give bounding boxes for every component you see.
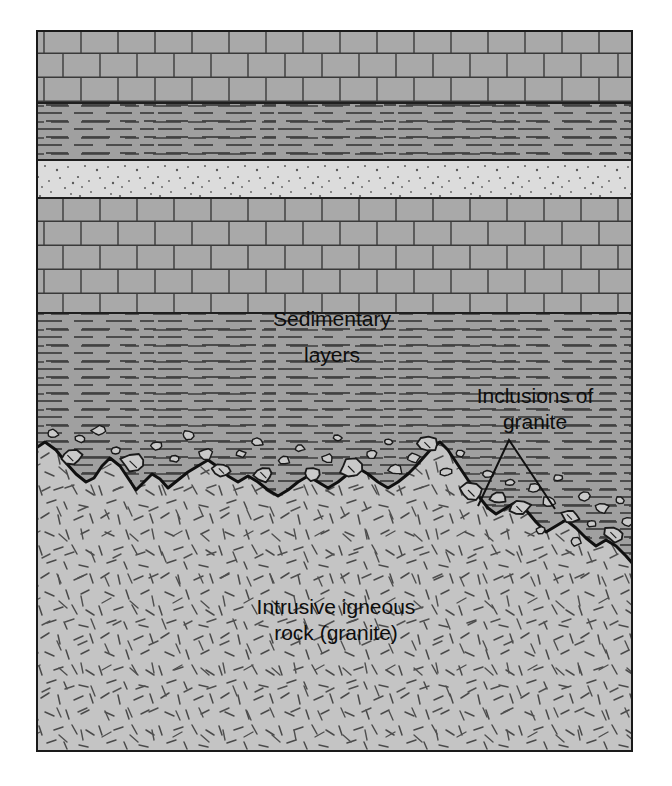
label-sedimentary-line1: Sedimentary (273, 307, 391, 330)
label-igneous-line1: Intrusive igneous (257, 595, 416, 618)
granite-inclusion (417, 437, 437, 451)
label-inclusions-line2: granite (503, 410, 567, 433)
granite-inclusion (367, 451, 377, 459)
granite-inclusion (456, 450, 465, 457)
granite-inclusion (536, 527, 544, 534)
granite-inclusion (554, 475, 563, 481)
granite-inclusion (199, 449, 213, 460)
label-inclusions-line1: Inclusions of (477, 384, 594, 407)
label-sedimentary-line2: layers (304, 343, 360, 366)
granite-inclusion (183, 431, 194, 440)
layer-sandstone (36, 160, 633, 198)
granite-inclusion (505, 479, 514, 485)
label-igneous-line2: rock (granite) (274, 621, 398, 644)
granite-inclusion (587, 521, 595, 527)
granite-inclusion (385, 439, 393, 444)
geologic-cross-section: Sedimentary layers Inclusions of granite… (36, 30, 633, 752)
layer-limestone-lower (36, 198, 633, 313)
granite-inclusion (579, 492, 591, 501)
granite-inclusion (111, 447, 120, 454)
granite-inclusion (170, 456, 179, 463)
cross-section-svg: Sedimentary layers Inclusions of granite… (36, 30, 633, 752)
granite-inclusion (440, 468, 452, 476)
layer-limestone-upper (36, 30, 633, 103)
figure-canvas: Sedimentary layers Inclusions of granite… (0, 0, 672, 786)
layer-shale-upper-overlay (36, 103, 633, 160)
granite-inclusion (305, 468, 320, 481)
